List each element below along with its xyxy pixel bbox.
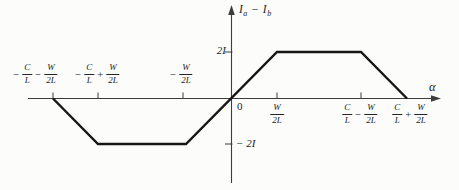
sign: − (168, 69, 178, 80)
y-axis-arrow-icon (228, 5, 235, 15)
y-tick-label-pos: 2I (202, 45, 226, 56)
fraction-c-l: CL (392, 103, 402, 126)
x-tick-label-cl-minus-w2l: CL − W2L (341, 103, 378, 126)
x-axis-title: α (429, 81, 436, 94)
fraction-w-2l: W2L (270, 103, 284, 126)
fraction-c-l: CL (342, 103, 352, 126)
y-title-minus: − (251, 3, 259, 15)
x-axis-arrow-icon (431, 95, 441, 102)
fraction-w-2l: W2L (364, 103, 378, 126)
y-axis-title: Ia − Ib (239, 4, 272, 18)
sign: − (11, 69, 21, 80)
fraction-w-2l: W2L (414, 103, 428, 126)
operator: + (95, 69, 105, 80)
origin-label: 0 (237, 101, 243, 112)
fraction-w-2l: W2L (106, 63, 120, 86)
y-tick-label-neg: − 2I (236, 138, 255, 149)
fraction-w-2l: W2L (179, 63, 193, 86)
trapezoid-current-figure: Ia − Ib α 0 2I − 2I − CL − W2L − CL + W2… (0, 0, 459, 190)
x-tick-label-neg-w2l: − W2L (168, 63, 193, 86)
operator: − (353, 109, 363, 120)
x-tick-label-cl-plus-w2l: CL + W2L (391, 103, 428, 126)
fraction-w-2l: W2L (44, 63, 58, 86)
y-title-sub2: b (267, 9, 272, 18)
x-tick-label-neg-cl-plus-w2l: − CL + W2L (73, 63, 120, 86)
operator: + (403, 109, 413, 120)
x-tick-label-neg-cl-minus-w2l: − CL − W2L (11, 63, 58, 86)
fraction-c-l: CL (22, 63, 32, 86)
sign: − (73, 69, 83, 80)
fraction-c-l: CL (84, 63, 94, 86)
plot-canvas (0, 0, 459, 190)
x-tick-label-w2l: W2L (269, 103, 285, 126)
y-title-sub1: a (243, 9, 248, 18)
operator: − (33, 69, 43, 80)
